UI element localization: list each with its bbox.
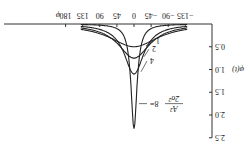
x-tick-label: 180 bbox=[60, 11, 72, 20]
x-tick-label: 45 bbox=[113, 11, 121, 20]
x-tick-label: 135 bbox=[77, 11, 89, 20]
curve-label: 4 bbox=[150, 56, 154, 65]
x-tick-label: −135 bbox=[177, 11, 194, 20]
y-tick-label: 1.5 bbox=[215, 87, 225, 96]
y-tick-label: 0.5 bbox=[215, 42, 225, 51]
curve-label: 2 bbox=[152, 44, 156, 53]
param-numerator: A² bbox=[170, 104, 179, 113]
x-tick-label: 90 bbox=[96, 11, 104, 20]
y-tick-label: 2.5 bbox=[215, 133, 225, 142]
leader-line bbox=[141, 61, 147, 72]
x-tick-label: −90 bbox=[162, 11, 175, 20]
x-axis-label: φ bbox=[55, 11, 60, 20]
y-axis-label: φ(t) bbox=[232, 65, 244, 74]
x-tick-label: −45 bbox=[145, 11, 158, 20]
curve-label: 1 bbox=[156, 36, 160, 45]
chart-svg: 0.51.01.52.02.5−135−90−4504590135180φφ(t… bbox=[0, 0, 252, 158]
curve-1 bbox=[81, 29, 187, 46]
curve-4 bbox=[81, 26, 187, 74]
x-tick-label: 0 bbox=[132, 11, 136, 20]
param-denominator: 2σ² bbox=[168, 94, 179, 103]
labels: 0.51.01.52.02.5−135−90−4504590135180φφ(t… bbox=[55, 11, 244, 142]
y-tick-label: 2.0 bbox=[215, 110, 225, 119]
axes bbox=[4, 24, 212, 138]
chart: 0.51.01.52.02.5−135−90−4504590135180φφ(t… bbox=[0, 0, 252, 158]
curve-label: 8= bbox=[150, 99, 159, 108]
y-tick-label: 1.0 bbox=[215, 65, 225, 74]
